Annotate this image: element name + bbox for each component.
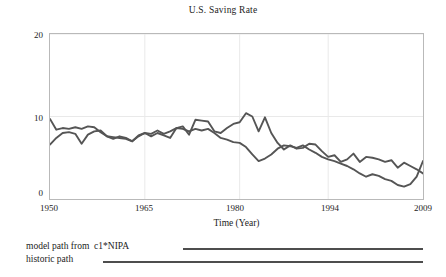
gridlines [50, 34, 423, 199]
chart-figure: U.S. Saving Rate 20 10 0 1950 1965 1980 … [0, 0, 446, 277]
plot-area [49, 33, 424, 200]
chart-title: U.S. Saving Rate [0, 5, 446, 15]
legend-line-historic [103, 261, 423, 263]
y-axis-tick-20: 20 [3, 30, 43, 40]
y-axis-tick-10: 10 [3, 113, 43, 123]
y-axis-tick-0: 0 [3, 188, 43, 198]
data-series-group [50, 113, 423, 186]
x-axis-tick-1950: 1950 [19, 203, 79, 213]
x-axis-tick-2009: 2009 [393, 203, 446, 213]
plot-canvas [50, 34, 423, 199]
legend-label-model: model path from c1*NIPA [26, 241, 129, 251]
legend-row-historic: historic path [0, 254, 446, 269]
legend-label-historic: historic path [26, 254, 73, 264]
x-axis-tick-1994: 1994 [300, 203, 360, 213]
legend-line-model [183, 248, 423, 250]
x-axis-label: Time (Year) [49, 218, 424, 228]
x-axis-tick-1980: 1980 [205, 203, 265, 213]
x-axis-tick-1965: 1965 [114, 203, 174, 213]
chart-legend: model path from c1*NIPA historic path [0, 241, 446, 277]
